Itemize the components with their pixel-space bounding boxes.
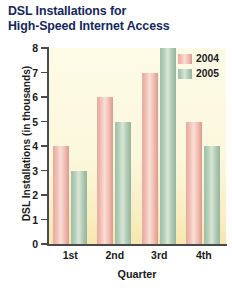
y-axis-tick (41, 145, 48, 147)
x-axis-tick-label: 4th (184, 249, 224, 261)
legend-label: 2005 (196, 68, 219, 79)
x-axis-line (47, 244, 227, 246)
bar-2005-4th (204, 146, 220, 244)
legend-item-2004: 2004 (178, 52, 230, 65)
legend-item-2005: 2005 (178, 67, 230, 80)
x-axis-tick-label: 1st (50, 249, 90, 261)
x-axis-tick-label: 3rd (139, 249, 179, 261)
bar-2004-2nd (97, 97, 113, 244)
bar-2005-1st (71, 171, 87, 245)
y-axis-title: DSL Installations (in thousands) (21, 46, 32, 242)
y-axis-tick (41, 194, 48, 196)
legend-label: 2004 (196, 53, 219, 64)
legend-swatch-icon (178, 54, 192, 64)
chart-title-line-2: High-Speed Internet Access (8, 19, 226, 34)
y-axis-tick (41, 72, 48, 74)
chart-legend: 20042005 (178, 52, 230, 82)
bar-2004-3rd (142, 73, 158, 245)
bar-2004-1st (53, 146, 69, 244)
legend-swatch-icon (178, 69, 192, 79)
y-axis-tick (41, 243, 48, 245)
y-axis-tick (41, 219, 48, 221)
y-axis-tick (41, 121, 48, 123)
bar-2005-3rd (160, 48, 176, 244)
y-axis-tick (41, 96, 48, 98)
y-axis-tick (41, 170, 48, 172)
chart-figure: DSL Installations for High-Speed Interne… (0, 0, 232, 292)
bar-2005-2nd (115, 122, 131, 245)
chart-title: DSL Installations for High-Speed Interne… (8, 4, 226, 33)
x-axis-title: Quarter (48, 268, 226, 280)
bar-2004-4th (186, 122, 202, 245)
x-axis-tick-label: 2nd (95, 249, 135, 261)
chart-title-line-1: DSL Installations for (8, 4, 226, 19)
y-axis-tick (41, 47, 48, 49)
